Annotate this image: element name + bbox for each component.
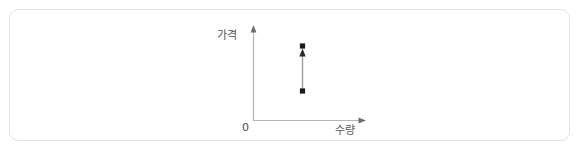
chart-svg — [10, 10, 571, 142]
data-point-raised-price — [300, 43, 305, 48]
screenshot-root: 가격 수량 0 — [0, 0, 581, 155]
diagram-card: 가격 수량 0 — [9, 9, 570, 141]
price-quantity-chart: 가격 수량 0 — [10, 10, 571, 142]
x-axis-label: 수량 — [335, 125, 355, 136]
y-axis-arrowhead-icon — [251, 25, 257, 33]
price-increase-arrowhead-icon — [299, 49, 305, 57]
x-axis-arrowhead-icon — [359, 118, 367, 124]
data-point-initial-price — [300, 88, 305, 93]
origin-label: 0 — [242, 122, 249, 133]
y-axis-label: 가격 — [217, 30, 237, 41]
